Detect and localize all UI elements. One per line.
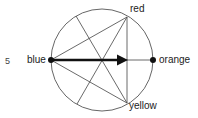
figure-number: 5: [5, 56, 10, 66]
label-red: red: [130, 4, 144, 14]
label-blue: blue: [27, 55, 46, 65]
chord-blue-yellow: [51, 60, 127, 103]
arrowhead-icon: [117, 55, 128, 66]
blue-dot: [48, 57, 54, 63]
label-yellow: yellow: [129, 101, 157, 111]
orange-dot: [150, 57, 156, 63]
color-wheel-diagram: 5 blue red orange yellow: [0, 0, 198, 118]
label-orange: orange: [159, 55, 190, 65]
